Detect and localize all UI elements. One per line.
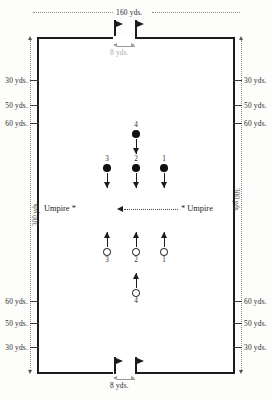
top-width-dotted-line-right bbox=[152, 12, 240, 13]
left-tick-30-lower bbox=[30, 347, 39, 348]
player-top-3: 3 bbox=[94, 155, 120, 188]
player-marker-filled bbox=[132, 164, 140, 172]
arrow-head bbox=[133, 232, 139, 238]
right-mark-label-50-top: 50 yds. bbox=[244, 101, 267, 110]
right-mark-label-50-bottom: 50 yds. bbox=[244, 319, 267, 328]
left-tick-60 bbox=[30, 123, 39, 124]
player-marker-hollow bbox=[103, 248, 111, 256]
player-number: 2 bbox=[123, 155, 149, 163]
right-tick-30-lower bbox=[233, 347, 242, 348]
flag-banner bbox=[116, 21, 123, 27]
player-marker-filled bbox=[103, 164, 111, 172]
player-number: 3 bbox=[94, 256, 120, 264]
player-number: 1 bbox=[151, 256, 177, 264]
player-bottom-3: 3 bbox=[94, 231, 120, 264]
top-goal-width-label: 8 yds. bbox=[110, 48, 129, 57]
left-mark-label-30-bottom: 30 yds. bbox=[0, 343, 28, 352]
right-mark-label-30-top: 30 yds. bbox=[244, 76, 267, 85]
player-marker-hollow bbox=[132, 248, 140, 256]
player-marker-hollow bbox=[132, 289, 140, 297]
goal-gap-top bbox=[113, 36, 135, 40]
arrow-head bbox=[133, 273, 139, 279]
left-mark-label-60-bottom: 60 yds. bbox=[0, 297, 28, 306]
player-number: 4 bbox=[123, 297, 149, 305]
left-mark-label-50-bottom: 50 yds. bbox=[0, 319, 28, 328]
direction-arrow-down bbox=[131, 139, 142, 154]
direction-arrow-up bbox=[131, 232, 142, 247]
flag-banner bbox=[116, 358, 123, 364]
player-bottom-2: 2 bbox=[123, 231, 149, 264]
player-top-1: 1 bbox=[151, 155, 177, 188]
player-number: 2 bbox=[123, 256, 149, 264]
flag-icon-bottom-left bbox=[114, 357, 125, 374]
right-tick-60-lower bbox=[233, 301, 242, 302]
centre-direction-arrow bbox=[117, 206, 123, 212]
direction-arrow-down bbox=[131, 173, 142, 188]
right-tick-50-lower bbox=[233, 323, 242, 324]
right-tick-50 bbox=[233, 105, 242, 106]
right-scale-dotted-line bbox=[241, 40, 242, 370]
top-width-label: 160 yds. bbox=[116, 8, 143, 17]
right-side-length-label: 300 yds. bbox=[232, 188, 240, 212]
player-top-2: 2 bbox=[123, 155, 149, 188]
field-diagram: 160 yds. 8 yds. 30 yds. 50 yds. 60 yds. … bbox=[0, 0, 272, 400]
arrow-head bbox=[104, 232, 110, 238]
right-tick-30 bbox=[233, 80, 242, 81]
umpire-left-label: Umpire * bbox=[44, 204, 76, 213]
direction-arrow-up bbox=[102, 232, 113, 247]
arrow-head bbox=[133, 148, 139, 154]
direction-arrow-down bbox=[159, 173, 170, 188]
left-scale-arrow-bottom bbox=[28, 370, 32, 374]
player-marker-hollow bbox=[160, 248, 168, 256]
direction-arrow-down bbox=[102, 173, 113, 188]
right-scale-arrow-bottom bbox=[239, 370, 243, 374]
right-tick-60 bbox=[233, 123, 242, 124]
player-number: 1 bbox=[151, 155, 177, 163]
right-mark-label-60-top: 60 yds. bbox=[244, 119, 267, 128]
player-bottom-4: 4 bbox=[123, 272, 149, 305]
right-mark-label-30-bottom: 30 yds. bbox=[244, 343, 267, 352]
direction-arrow-up bbox=[159, 232, 170, 247]
arrow-head bbox=[133, 182, 139, 188]
centre-dotted-line bbox=[124, 209, 178, 210]
arrow-head bbox=[161, 182, 167, 188]
flag-banner bbox=[137, 358, 144, 364]
left-side-length-label: 300 yds. bbox=[32, 202, 40, 226]
top-goal-span-cap-right bbox=[131, 43, 135, 47]
player-marker-filled bbox=[160, 164, 168, 172]
flag-icon-top-right bbox=[135, 20, 146, 37]
flag-icon-bottom-right bbox=[135, 357, 146, 374]
arrow-head bbox=[104, 182, 110, 188]
left-tick-30 bbox=[30, 80, 39, 81]
left-mark-label-30-top: 30 yds. bbox=[0, 76, 28, 85]
left-tick-50-lower bbox=[30, 323, 39, 324]
right-mark-label-60-bottom: 60 yds. bbox=[244, 297, 267, 306]
player-marker-filled bbox=[132, 130, 140, 138]
bottom-goal-width-label: 8 yds. bbox=[110, 381, 129, 390]
player-bottom-1: 1 bbox=[151, 231, 177, 264]
left-tick-50 bbox=[30, 105, 39, 106]
top-width-dotted-line-left bbox=[33, 12, 113, 13]
flag-icon-top-left bbox=[114, 20, 125, 37]
direction-arrow-up bbox=[131, 273, 142, 288]
left-mark-label-60-top: 60 yds. bbox=[0, 119, 28, 128]
left-tick-60-lower bbox=[30, 301, 39, 302]
flag-banner bbox=[137, 21, 144, 27]
left-mark-label-50-top: 50 yds. bbox=[0, 101, 28, 110]
umpire-right-label: * Umpire bbox=[181, 204, 213, 213]
player-number: 3 bbox=[94, 155, 120, 163]
player-top-4: 4 bbox=[123, 121, 149, 154]
bottom-goal-span-cap-right bbox=[131, 376, 135, 380]
player-number: 4 bbox=[123, 121, 149, 129]
arrow-head bbox=[161, 232, 167, 238]
